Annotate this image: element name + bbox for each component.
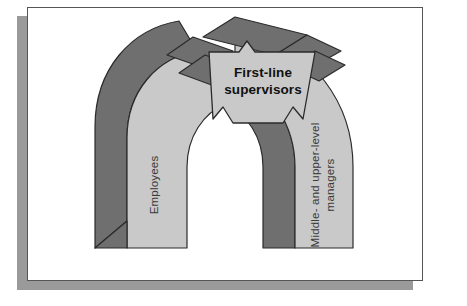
banner-label-line2: supervisors [224,82,302,97]
banner-label-line1: First-line [234,65,292,80]
arch-diagram: First-line supervisors Employees Middle-… [27,7,423,281]
diagram-stage: First-line supervisors Employees Middle-… [0,0,467,306]
right-pillar-label-line2: managers [324,159,336,212]
right-pillar-label-line1: Middle- and upper-level [309,123,321,248]
left-pillar-label: Employees [148,156,160,215]
